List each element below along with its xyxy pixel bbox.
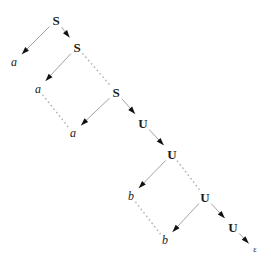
tree-node-b1: b (128, 190, 134, 202)
derivation-tree-canvas: SaSaSaUUbUbUε (0, 0, 271, 271)
tree-node-eps: ε (253, 246, 256, 254)
arrowhead-s1-to-s2 (63, 30, 70, 38)
tree-node-s2: S (73, 41, 80, 54)
tree-node-u1: U (138, 117, 147, 130)
edge-u2-to-u3 (177, 161, 199, 190)
tree-node-s3: S (112, 86, 119, 99)
tree-node-u4: U (228, 221, 237, 234)
edge-s2-to-s3 (83, 54, 110, 85)
tree-node-u2: U (167, 148, 176, 161)
edge-b1-to-b2 (136, 202, 160, 233)
tree-node-a2: a (35, 83, 41, 95)
tree-node-a3: a (70, 127, 76, 139)
tree-node-u3: U (200, 191, 209, 204)
tree-node-a1: a (11, 56, 17, 68)
tree-node-s1: S (52, 14, 59, 27)
edge-a2-to-a3 (43, 95, 68, 126)
tree-node-b2: b (162, 234, 168, 246)
